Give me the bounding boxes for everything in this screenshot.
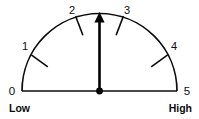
low-anchor-label: Low [9, 102, 31, 114]
tick-mark-3 [116, 16, 123, 35]
tick-mark-1 [31, 55, 48, 67]
needle-pivot-dot [96, 88, 103, 95]
scale-label-2: 2 [69, 4, 75, 16]
scale-label-0: 0 [9, 85, 15, 97]
tick-mark-2 [76, 16, 83, 35]
tick-mark-4 [151, 55, 168, 67]
gauge-diagram: 1 2 3 4 0 5 Low High [0, 0, 199, 119]
high-anchor-label: High [169, 102, 192, 114]
scale-label-4: 4 [171, 40, 177, 52]
scale-label-5: 5 [184, 85, 190, 97]
scale-label-3: 3 [124, 4, 130, 16]
gauge-canvas: 1 2 3 4 0 5 Low High [0, 0, 199, 119]
scale-label-1: 1 [22, 40, 28, 52]
